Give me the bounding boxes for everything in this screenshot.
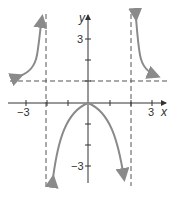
y-axis-label: y — [78, 11, 86, 25]
y-tick-label-3: 3 — [77, 33, 83, 45]
left-branch — [20, 18, 42, 76]
right-branch — [136, 18, 157, 76]
x-tick-label-3: 3 — [148, 106, 154, 118]
x-tick-label-neg3: −3 — [17, 106, 30, 118]
x-axis-label: x — [160, 105, 168, 119]
axes — [8, 15, 166, 183]
y-tick-label-neg3: −3 — [71, 160, 84, 172]
function-graph: −3 3 x y 3 −3 — [0, 0, 173, 198]
